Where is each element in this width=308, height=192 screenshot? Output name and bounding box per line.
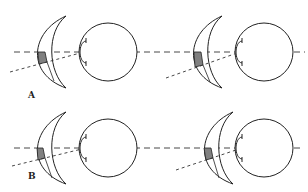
prism-segment: [194, 52, 203, 67]
eye: [79, 23, 137, 81]
row-label-a: A: [27, 90, 36, 100]
eye: [79, 119, 137, 177]
row-label-b: B: [28, 171, 36, 181]
lens-eye-diagram: A B: [0, 0, 308, 192]
eye: [235, 23, 293, 81]
panel-a-left: [10, 16, 154, 88]
panel-a-right: [154, 16, 305, 88]
eye: [235, 119, 293, 177]
panel-b-right: [154, 112, 300, 184]
